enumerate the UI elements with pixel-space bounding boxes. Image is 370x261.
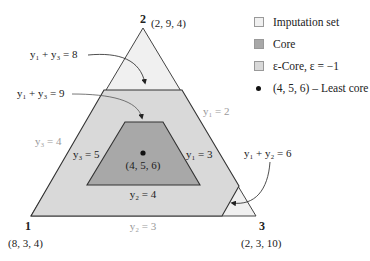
core-swatch-icon [254,39,264,49]
constraint-y2-3-label: y₂ = 3 [130,220,157,232]
constraint-y1-y2-6-label: y₁ + y₂ = 6 [244,147,292,159]
epsilon-core-swatch-icon [254,61,264,71]
constraint-y1-y3-9-label: y₁ + y₃ = 9 [17,87,65,99]
dot-icon [256,86,261,91]
constraint-y1-3-label: y₁ = 3 [186,148,213,160]
vertex-3-coords: (2, 3, 10) [241,237,282,250]
legend-item-imputation-set: Imputation set [252,11,368,33]
vertex-2-label: 2 [140,12,146,26]
legend: Imputation set Core ε-Core, ε = −1 (4, 5… [252,11,368,99]
vertex-1-coords: (8, 3, 4) [8,237,43,250]
legend-label: Imputation set [273,16,339,28]
constraint-y1-2-label: y₁ = 2 [203,105,230,117]
least-core-coords: (4, 5, 6) [126,159,161,172]
constraint-y1-y3-8-label: y₁ + y₃ = 8 [30,48,78,60]
imputation-swatch-icon [254,17,264,27]
constraint-y3-4-label: y₃ = 4 [35,135,62,147]
legend-item-epsilon-core: ε-Core, ε = −1 [252,55,368,77]
vertex-2-coords: (2, 9, 4) [151,17,186,30]
constraint-y2-4-label: y₂ = 4 [130,188,157,200]
legend-item-least-core: (4, 5, 6) – Least core [252,77,368,99]
legend-label: ε-Core, ε = −1 [273,60,339,72]
vertex-1-label: 1 [25,219,31,233]
constraint-y3-5-label: y₃ = 5 [73,148,100,160]
least-core-point [140,150,145,155]
legend-label: (4, 5, 6) – Least core [273,82,368,94]
vertex-3-label: 3 [259,219,265,233]
legend-label: Core [273,38,295,50]
legend-item-core: Core [252,33,368,55]
